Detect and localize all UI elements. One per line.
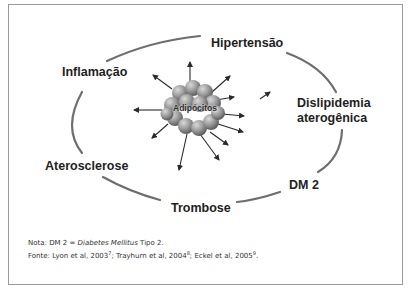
footnote-source: Fonte: Lyon et al, 20037; Trayhurn et al…: [28, 252, 258, 261]
note-prefix: Nota: DM 2 =: [28, 239, 78, 247]
arc-right: [318, 130, 342, 172]
arc-bottom-left: [103, 177, 160, 200]
arc-top-right: [287, 53, 336, 92]
label-trombose: Trombose: [171, 201, 231, 215]
source-part-3: ; Eckel et al, 2005: [190, 252, 253, 260]
arrow-down-right: [210, 132, 228, 145]
arrow-up-left: [153, 75, 172, 89]
note-italic: Diabetes Mellitus: [78, 239, 138, 247]
arrow-up-right: [212, 76, 230, 92]
source-part-1: Fonte: Lyon et al, 2003: [28, 252, 108, 260]
label-aterogenica: aterogênica: [297, 111, 367, 125]
footnote-note: Nota: DM 2 = Diabetes Mellitus Tipo 2.: [28, 239, 164, 248]
arrow-right: [222, 114, 244, 116]
label-dm2: DM 2: [289, 178, 319, 192]
label-inflamacao: Inflamação: [62, 65, 127, 79]
secretion-arrows: [134, 62, 270, 170]
arc-left: [72, 92, 82, 153]
arrow-lone: [260, 92, 270, 99]
adipocyte-diagram: [0, 0, 409, 294]
label-aterosclerose: Aterosclerose: [45, 159, 128, 173]
label-hipertensao: Hipertensão: [211, 36, 283, 50]
source-end: .: [256, 252, 258, 260]
label-dislipidemia: Dislipidemia: [297, 96, 371, 110]
adipocytes-label: Adipócitos: [162, 103, 228, 113]
arrow-down-left: [152, 124, 168, 138]
arc-bottom-right: [237, 192, 280, 202]
arrow-down-right-2: [200, 134, 219, 160]
arc-top-left: [107, 36, 200, 61]
arrow-right-lower: [218, 124, 243, 132]
note-suffix: Tipo 2.: [138, 239, 164, 247]
arrow-down: [179, 134, 187, 170]
source-part-2: ; Trayhurn et al, 2004: [111, 252, 186, 260]
